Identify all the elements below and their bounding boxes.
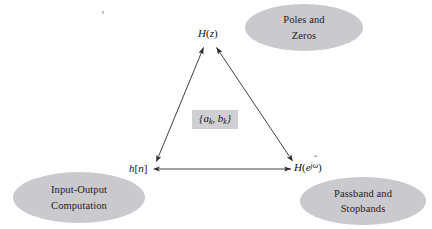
omega-hat-accent: ˆ xyxy=(314,157,316,164)
edge-hejw-to-hz xyxy=(217,48,290,157)
node-hn-close: ] xyxy=(144,162,148,174)
ellipse-poles-and-zeros-line2: Zeros xyxy=(292,28,316,43)
ellipse-passband-and-stopbands-line1: Passband and xyxy=(334,186,392,201)
node-label-h-of-e-j-omega: H(ejˆω) xyxy=(294,161,322,173)
ellipse-poles-and-zeros-line1: Poles and xyxy=(283,12,324,27)
ellipse-input-output-computation-line1: Input-Output xyxy=(51,182,107,197)
node-hz-main: H xyxy=(198,27,206,39)
center-label-coefficients: {ak, bk} xyxy=(192,110,238,129)
ellipse-input-output-computation: Input-Output Computation xyxy=(13,172,145,223)
node-hejw-close: ) xyxy=(318,161,322,173)
scan-artifact-speck xyxy=(102,11,104,14)
node-hz-close: ) xyxy=(214,27,218,39)
figure-canvas: H(z) --> H(z) --> H(e^jw) --> Poles and … xyxy=(0,0,432,229)
node-hejw-main: H xyxy=(294,161,302,173)
edge-hn-to-hz xyxy=(159,48,204,157)
coeff-close-brace: } xyxy=(227,112,231,124)
ellipse-passband-and-stopbands-line2: Stopbands xyxy=(341,201,386,216)
ellipse-passband-and-stopbands: Passband and Stopbands xyxy=(300,177,426,225)
node-label-h-of-n: h[n] xyxy=(129,162,147,174)
node-hejw-exponent: jˆω xyxy=(311,161,319,170)
ellipse-input-output-computation-line2: Computation xyxy=(51,198,107,213)
ellipse-poles-and-zeros: Poles and Zeros xyxy=(245,4,363,51)
node-label-h-of-z: H(z) xyxy=(198,27,218,39)
node-hejw-exp-omega-group: ˆω xyxy=(313,161,318,170)
